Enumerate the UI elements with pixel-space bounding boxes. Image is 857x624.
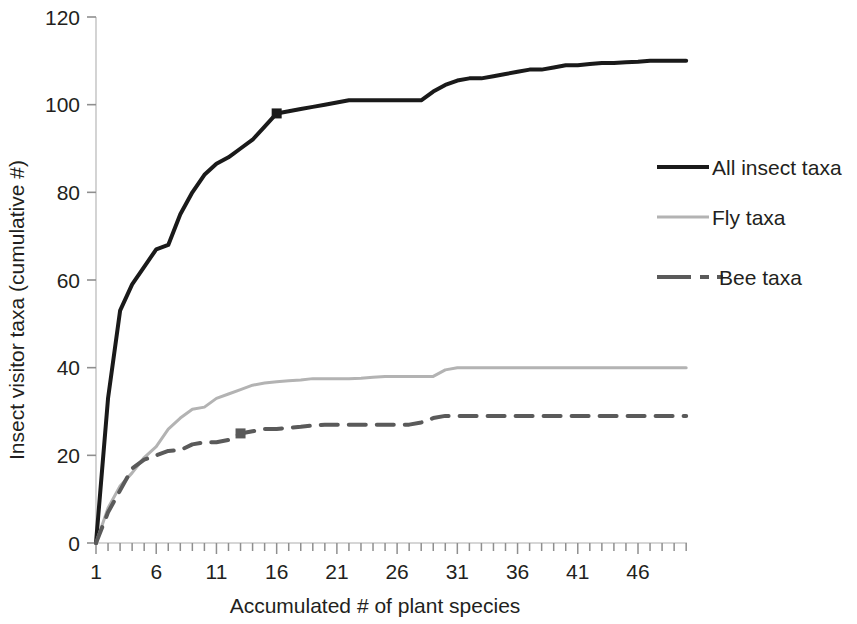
series-line-1 [96,368,686,543]
y-tick-label: 120 [45,6,80,29]
series-line-0 [96,61,686,543]
x-tick-label: 26 [385,560,408,583]
y-axis-title: Insect visitor taxa (cumulative #) [5,160,28,460]
legend-label-2: Bee taxa [719,266,802,289]
chart-legend: All insect taxaFly taxaBee taxa [657,156,842,289]
tick-label-layer: 020406080100120161116212631364146 [45,6,650,584]
x-tick-label: 31 [446,560,469,583]
y-tick-label: 80 [57,181,80,204]
chart-figure: 020406080100120161116212631364146 All in… [0,0,857,624]
series-layer [96,61,686,543]
x-tick-label: 1 [90,560,102,583]
x-tick-label: 36 [506,560,529,583]
y-tick-label: 0 [68,532,80,555]
y-tick-label: 20 [57,444,80,467]
x-tick-label: 6 [150,560,162,583]
y-tick-label: 100 [45,93,80,116]
series-line-2 [96,416,686,543]
legend-label-0: All insect taxa [712,156,842,179]
legend-label-1: Fly taxa [712,206,786,229]
y-tick-label: 60 [57,269,80,292]
axis-layer [87,17,687,554]
x-tick-label: 46 [626,560,649,583]
x-tick-label: 21 [325,560,348,583]
y-tick-label: 40 [57,356,80,379]
series-marker [272,108,282,118]
x-axis-title: Accumulated # of plant species [230,594,521,617]
chart-canvas: 020406080100120161116212631364146 All in… [0,0,857,624]
x-tick-label: 11 [206,560,228,583]
x-tick-label: 41 [566,560,589,583]
x-tick-label: 16 [265,560,288,583]
series-marker [236,428,246,438]
